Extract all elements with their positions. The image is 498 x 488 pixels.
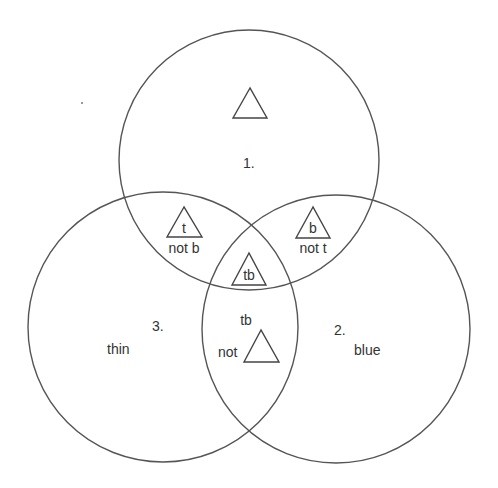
circle-1-label: 1. <box>243 155 255 171</box>
triangle-icon <box>244 330 279 362</box>
venn-diagram: 1. t not b b not t tb tb not 3. thin 2. … <box>0 0 498 488</box>
caption-not-b: not b <box>168 240 199 256</box>
caption-tb: tb <box>240 312 252 328</box>
triangle-icon <box>233 88 267 118</box>
speck <box>81 102 83 104</box>
circle-3-descriptor: thin <box>107 341 130 357</box>
circle-2-label: 2. <box>334 322 346 338</box>
triangle-b-inner: b <box>309 220 317 236</box>
circle-3-label: 3. <box>152 318 164 334</box>
circle-2-descriptor: blue <box>354 342 381 358</box>
triangle-tb-inner: tb <box>243 267 255 283</box>
triangle-t-inner: t <box>182 220 186 236</box>
caption-not: not <box>218 344 238 360</box>
caption-not-t: not t <box>299 240 326 256</box>
